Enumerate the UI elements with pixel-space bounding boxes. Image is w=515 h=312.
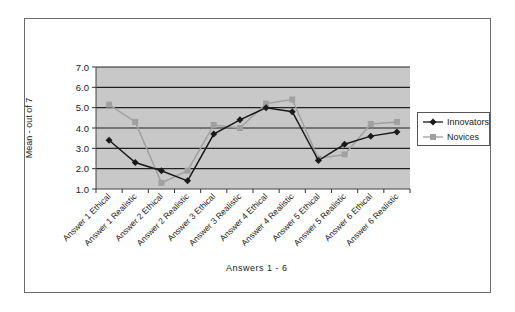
legend-label-innovators: Innovators: [447, 117, 489, 127]
y-tick-label: 5.0: [76, 102, 89, 113]
data-point: [211, 122, 217, 128]
data-point: [394, 119, 400, 125]
data-point: [237, 125, 243, 131]
y-axis-title: Mean - out of 7: [24, 98, 34, 159]
data-point: [368, 121, 374, 127]
y-tick-label: 1.0: [76, 184, 89, 195]
data-point: [185, 168, 191, 174]
y-tick-label: 3.0: [76, 143, 89, 154]
y-tick-label: 4.0: [76, 123, 89, 134]
y-tick-label: 2.0: [76, 163, 89, 174]
legend-item-novices: Novices: [422, 130, 479, 144]
legend-label-novices: Novices: [447, 132, 479, 142]
x-axis-title: Answers 1 - 6: [226, 263, 288, 273]
data-point: [132, 119, 138, 125]
chart-legend: Innovators Novices: [417, 112, 490, 146]
y-tick-label: 7.0: [76, 62, 89, 73]
square-marker-icon: [422, 131, 444, 143]
legend-item-innovators: Innovators: [422, 115, 489, 129]
data-point: [342, 151, 348, 157]
y-tick-label: 6.0: [76, 82, 89, 93]
data-point: [289, 97, 295, 103]
data-point: [158, 180, 164, 186]
diamond-marker-icon: [422, 116, 444, 128]
data-point: [106, 102, 112, 108]
